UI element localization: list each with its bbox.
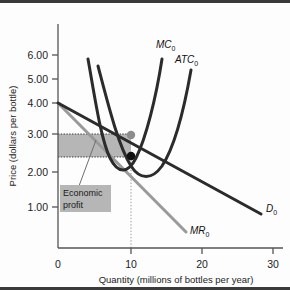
x-tick-label-0: 0 <box>55 258 61 270</box>
y-tick-label-4: 4.00 <box>28 97 49 109</box>
chart-canvas: 6.00 5.00 4.00 3.00 2.00 1.00 0 10 20 30… <box>0 0 290 290</box>
x-tick-label-20: 20 <box>196 258 208 270</box>
y-axis-title: Price (dollars per bottle) <box>7 86 18 187</box>
curve-label-atc0: ATC0 <box>174 54 198 67</box>
economic-profit-callout-line1: Economic <box>63 188 103 198</box>
y-tick-label-5: 5.00 <box>28 73 49 85</box>
y-tick-label-6: 6.00 <box>28 49 49 61</box>
x-tick-label-10: 10 <box>125 258 137 270</box>
economic-profit-callout-line2: profit <box>63 200 84 210</box>
profit-maximizing-point-marker <box>127 152 135 160</box>
curve-mr0 <box>58 103 186 232</box>
economics-figure: 6.00 5.00 4.00 3.00 2.00 1.00 0 10 20 30… <box>0 0 290 290</box>
curve-label-d0: D0 <box>266 203 277 216</box>
curve-label-mr0: MR0 <box>190 225 210 238</box>
y-tick-label-3: 3.00 <box>28 128 49 140</box>
x-axis-title: Quantity (millions of bottles per year) <box>99 274 254 285</box>
price-point-marker <box>127 131 135 139</box>
y-tick-label-1: 1.00 <box>28 201 49 213</box>
x-tick-label-30: 30 <box>267 258 279 270</box>
y-tick-label-2: 2.00 <box>28 166 49 178</box>
curve-label-mc0: MC0 <box>156 39 176 52</box>
